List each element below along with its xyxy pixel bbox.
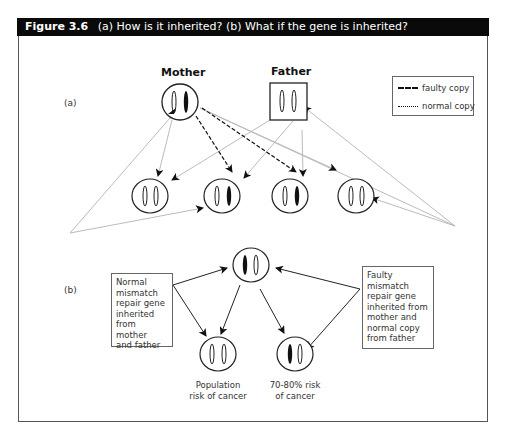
offspring-3 (272, 179, 308, 213)
caption-line: 70-80% risk (260, 380, 330, 391)
box-line: repair gene (367, 291, 429, 302)
box-line: normal copy (367, 323, 429, 334)
caption-line: Population (180, 380, 256, 391)
box-line: repair gene (116, 298, 168, 309)
box-line: from father (367, 333, 429, 344)
outcome-faulty (277, 337, 313, 371)
offspring-2 (204, 179, 240, 213)
box-line: from mother (116, 319, 168, 340)
legend: faulty copy normal copy (392, 76, 474, 116)
box-line: inherited from (367, 302, 429, 313)
light-arrows-a (70, 107, 455, 233)
inheritance-diagram (0, 0, 508, 436)
caption-line: risk of cancer (180, 391, 256, 402)
faulty-inheritance-box: Faulty mismatch repair gene inherited fr… (362, 266, 434, 349)
proband-b (233, 248, 269, 282)
caption-line: of cancer (260, 391, 330, 402)
box-line: mismatch (367, 281, 429, 292)
normal-inheritance-box: Normal mismatch repair gene inherited fr… (111, 273, 173, 347)
box-line: mother and (367, 312, 429, 323)
mother-label: Mother (161, 66, 205, 79)
legend-label: normal copy (422, 101, 475, 111)
offspring-1 (132, 179, 168, 213)
box-line: Normal (116, 277, 168, 288)
dashed-line-swatch (398, 87, 418, 89)
legend-label: faulty copy (422, 83, 469, 93)
legend-item-faulty: faulty copy (398, 83, 469, 93)
part-a-label: (a) (64, 98, 77, 108)
legend-item-normal: normal copy (398, 101, 475, 111)
population-risk-caption: Population risk of cancer (180, 380, 256, 401)
box-line: and father (116, 340, 168, 351)
box-line: Faulty (367, 270, 429, 281)
high-risk-caption: 70-80% risk of cancer (260, 380, 330, 401)
box-line: mismatch (116, 288, 168, 299)
box-line: inherited (116, 309, 168, 320)
father-label: Father (271, 65, 311, 78)
arrows-b (173, 268, 360, 349)
offspring-4 (338, 179, 374, 213)
outcome-normal (200, 337, 236, 371)
mother-symbol (162, 84, 198, 120)
dotted-line-swatch (398, 106, 418, 107)
part-b-label: (b) (64, 285, 77, 295)
father-symbol (270, 83, 307, 120)
